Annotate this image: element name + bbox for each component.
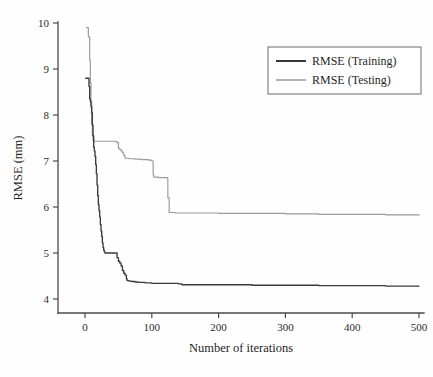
- legend-label-rmse-testing: RMSE (Testing): [312, 73, 391, 87]
- x-tick-label: 100: [144, 321, 161, 333]
- y-tick-label: 5: [44, 247, 50, 259]
- y-tick-label: 4: [44, 293, 50, 305]
- y-tick-label: 10: [38, 17, 50, 29]
- rmse-line-chart: 45678910 0100200300400500 Number of iter…: [0, 0, 433, 377]
- x-axis-ticks: 0100200300400500: [82, 313, 428, 333]
- y-tick-label: 6: [44, 201, 50, 213]
- x-tick-label: 400: [344, 321, 361, 333]
- x-axis-title: Number of iterations: [189, 341, 293, 355]
- chart-figure: 45678910 0100200300400500 Number of iter…: [0, 0, 433, 377]
- x-tick-label: 0: [82, 321, 88, 333]
- x-tick-label: 500: [411, 321, 428, 333]
- x-tick-label: 200: [210, 321, 227, 333]
- series-line-rmse-training: [86, 78, 419, 286]
- y-tick-label: 7: [44, 155, 50, 167]
- y-axis-ticks: 45678910: [38, 17, 58, 305]
- y-tick-label: 8: [44, 109, 50, 121]
- chart-legend: RMSE (Training) RMSE (Testing): [268, 47, 421, 94]
- y-axis-title: RMSE (mm): [11, 136, 25, 201]
- legend-label-rmse-training: RMSE (Training): [312, 54, 397, 68]
- x-tick-label: 300: [277, 321, 294, 333]
- y-tick-label: 9: [44, 63, 50, 75]
